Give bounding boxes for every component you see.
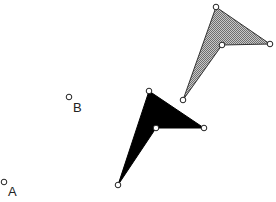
point-b-marker [66,94,72,100]
vertex-point [213,4,219,10]
geometry-diagram: A B [0,0,276,202]
vertex-point [180,97,186,103]
point-a-label: A [8,184,17,199]
vertex-point [146,88,152,94]
black-quadrilateral [118,91,204,185]
vertex-point [267,41,273,47]
point-a-marker [1,179,7,185]
vertex-point [153,125,159,131]
vertex-point [115,182,121,188]
vertex-point [201,125,207,131]
vertex-point [219,42,225,48]
point-b-label: B [73,100,82,115]
hatched-quadrilateral [183,7,270,100]
